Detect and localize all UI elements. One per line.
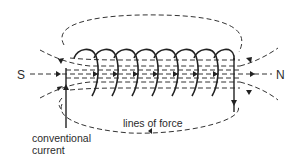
solenoid-diagram: S N lines of force conventional current: [0, 0, 302, 162]
conventional-current-label-line2: current: [32, 144, 65, 156]
axis-arrow-right: [250, 71, 255, 77]
axis-arrow-left: [56, 71, 61, 77]
current-arrow-down: [231, 100, 237, 106]
conventional-current-label-line1: conventional: [32, 132, 91, 144]
inner-upper-field-line: [70, 58, 240, 60]
south-pole-label: S: [17, 68, 25, 82]
field-arrow-lower-right: [246, 90, 252, 95]
field-arrow-upper-left: [58, 58, 64, 64]
field-arrow-upper-right: [246, 57, 252, 63]
right-lower-field-line: [240, 82, 278, 100]
north-pole-label: N: [276, 68, 285, 82]
lines-of-force-label: lines of force: [123, 117, 183, 129]
upper-field-loop: [62, 15, 242, 52]
right-upper-field-line: [240, 48, 278, 66]
